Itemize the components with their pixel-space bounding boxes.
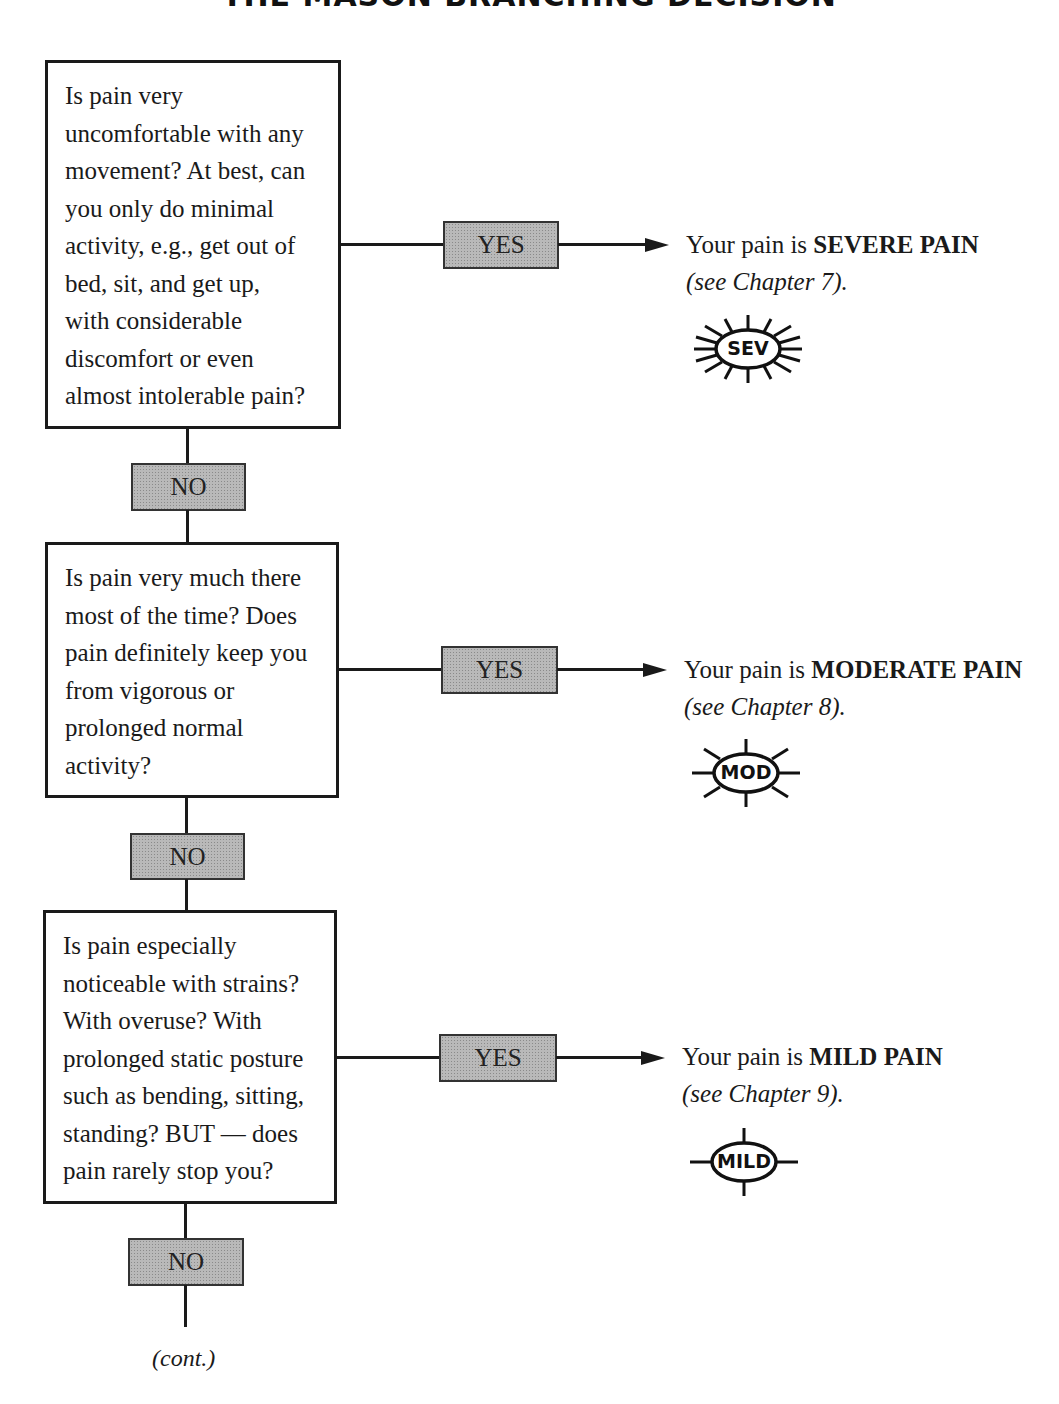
chapter-reference: (see Chapter 7). [686,263,979,300]
result-level: MODERATE PAIN [811,656,1022,683]
no-tag-1: NO [131,463,246,511]
connector-no-3-bottom [184,1285,187,1327]
arrow-head-icon [641,1051,665,1065]
connector-no-3-top [184,1203,187,1239]
result-severe: Your pain is SEVERE PAIN (see Chapter 7)… [686,226,979,300]
mild-badge: MILD [688,1126,800,1202]
arrow-head-icon [643,663,667,677]
diagram-title: THE MASON BRANCHING DECISION [0,0,1059,13]
arrow-head-icon [645,238,669,252]
badge-label: MILD [688,1150,800,1172]
arrow-line-1 [558,243,648,246]
arrow-line-3 [556,1056,645,1059]
yes-tag-2: YES [441,646,558,694]
badge-label: SEV [692,337,804,359]
result-level: SEVERE PAIN [813,231,979,258]
result-prefix: Your pain is [686,231,813,258]
continuation-note: (cont.) [152,1345,215,1372]
connector-yes-1 [340,243,444,246]
result-mild: Your pain is MILD PAIN (see Chapter 9). [682,1038,943,1112]
question-box-3: Is pain especially noticeable with strai… [43,910,337,1204]
connector-no-1-bottom [186,510,189,543]
chapter-reference: (see Chapter 9). [682,1075,943,1112]
connector-yes-2 [338,668,442,671]
no-tag-3: NO [128,1238,244,1286]
badge-label: MOD [690,761,802,783]
arrow-line-2 [557,668,647,671]
question-box-1: Is pain very uncomfortable with any move… [45,60,341,429]
no-tag-2: NO [130,833,245,880]
result-level: MILD PAIN [809,1043,943,1070]
result-prefix: Your pain is [682,1043,809,1070]
chapter-reference: (see Chapter 8). [684,688,1022,725]
severe-badge: SEV [692,313,804,389]
connector-yes-3 [336,1056,440,1059]
result-moderate: Your pain is MODERATE PAIN (see Chapter … [684,651,1022,725]
yes-tag-1: YES [443,221,559,269]
moderate-badge: MOD [690,737,802,813]
connector-no-2-bottom [185,879,188,911]
result-prefix: Your pain is [684,656,811,683]
connector-no-1-top [186,428,189,464]
connector-no-2-top [185,797,188,834]
question-box-2: Is pain very much there most of the time… [45,542,339,798]
yes-tag-3: YES [439,1034,557,1082]
